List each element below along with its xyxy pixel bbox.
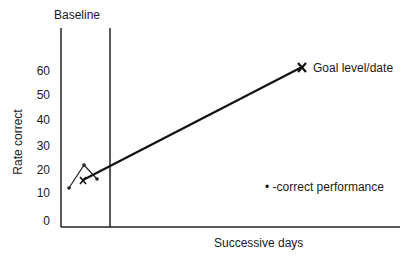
baseline-median-x-icon [80, 177, 86, 184]
y-axis-label: Rate correct [11, 109, 25, 174]
y-tick-0: 0 [24, 214, 50, 228]
aimline [83, 67, 302, 180]
y-tick-60: 60 [24, 64, 50, 78]
x-axis-label: Successive days [214, 236, 303, 250]
y-tick-50: 50 [24, 88, 50, 102]
data-point [95, 177, 99, 181]
y-tick-40: 40 [24, 113, 50, 127]
phase-label: Baseline [54, 8, 100, 22]
legend-marker-icon: • [265, 180, 269, 194]
data-point [82, 163, 86, 167]
chart-canvas [0, 0, 413, 263]
data-point [67, 186, 71, 190]
y-tick-10: 10 [24, 186, 50, 200]
y-tick-30: 30 [24, 139, 50, 153]
legend: • -correct performance [265, 180, 384, 194]
y-tick-20: 20 [24, 163, 50, 177]
legend-text: -correct performance [273, 180, 384, 194]
goal-label: Goal level/date [313, 61, 393, 75]
baseline-data-line [69, 165, 97, 188]
